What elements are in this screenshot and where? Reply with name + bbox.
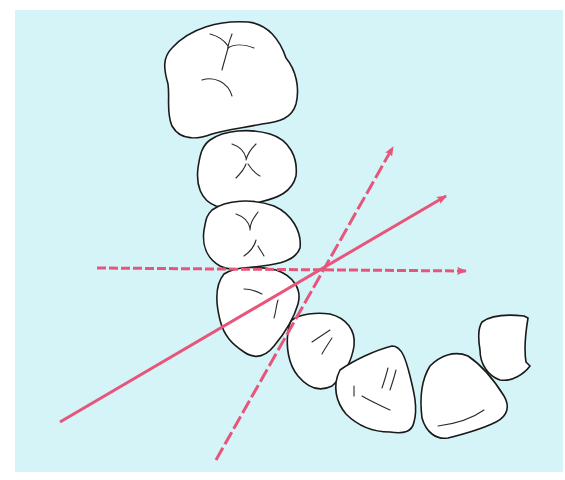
tooth-lateral-incisor-opposite bbox=[479, 315, 530, 380]
tooth-premolar-1 bbox=[204, 201, 301, 269]
tooth-premolar-2 bbox=[198, 131, 297, 208]
dental-arch-diagram bbox=[0, 0, 565, 480]
tooth-molar bbox=[165, 22, 298, 138]
arrow-horizontal-dashed bbox=[97, 268, 466, 271]
